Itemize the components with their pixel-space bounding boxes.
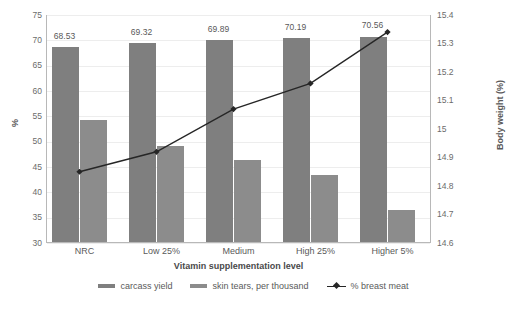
y-tick-right: 15.1 (437, 95, 463, 105)
legend-line-icon (327, 282, 346, 291)
y-tick-left: 55 (20, 111, 42, 121)
x-tick-label: Higher 5% (354, 246, 431, 256)
y-axis-left-title: % (10, 103, 20, 143)
legend-swatch-icon (98, 284, 115, 288)
y-tick-right: 15.2 (437, 67, 463, 77)
bar-data-label: 69.89 (191, 24, 246, 34)
y-tick-left: 30 (20, 238, 42, 248)
line-path-breast-meat (80, 32, 388, 172)
x-tick-label: High 25% (277, 246, 354, 256)
y-tick-right: 15.4 (437, 10, 463, 20)
legend-swatch-icon (190, 284, 207, 288)
y-tick-right: 14.8 (437, 181, 463, 191)
x-axis-title: Vitamin supplementation level (46, 261, 431, 271)
x-tick-label: Low 25% (123, 246, 200, 256)
legend-item[interactable]: skin tears, per thousand (190, 281, 308, 291)
plot-area (46, 15, 431, 243)
y-axis-right-title: Body weight (%) (495, 70, 505, 160)
y-tick-right: 15 (437, 124, 463, 134)
line-marker (76, 169, 82, 175)
line-series-breast-meat (47, 15, 432, 243)
chart-container: % Body weight (%) 30354045505560657075 1… (0, 0, 507, 312)
y-tick-left: 40 (20, 187, 42, 197)
legend-label: carcass yield (120, 281, 172, 291)
y-tick-left: 35 (20, 212, 42, 222)
line-marker (153, 149, 159, 155)
y-tick-left: 50 (20, 136, 42, 146)
legend-item[interactable]: % breast meat (327, 281, 409, 291)
y-tick-left: 75 (20, 10, 42, 20)
bar-data-label: 69.32 (114, 27, 169, 37)
y-tick-left: 45 (20, 162, 42, 172)
y-tick-right: 15.3 (437, 38, 463, 48)
x-tick-label: Medium (200, 246, 277, 256)
y-tick-right: 14.7 (437, 209, 463, 219)
y-tick-left: 60 (20, 86, 42, 96)
legend-label: % breast meat (351, 281, 409, 291)
y-tick-right: 14.9 (437, 152, 463, 162)
gridline (47, 243, 430, 244)
chart-legend: carcass yieldskin tears, per thousand% b… (0, 281, 507, 291)
bar-data-label: 70.56 (345, 20, 400, 30)
y-tick-right: 14.6 (437, 238, 463, 248)
line-marker (230, 106, 236, 112)
y-tick-left: 65 (20, 60, 42, 70)
legend-item[interactable]: carcass yield (98, 281, 172, 291)
bar-data-label: 68.53 (37, 31, 92, 41)
x-tick-label: NRC (46, 246, 123, 256)
legend-label: skin tears, per thousand (212, 281, 308, 291)
bar-data-label: 70.19 (268, 22, 323, 32)
